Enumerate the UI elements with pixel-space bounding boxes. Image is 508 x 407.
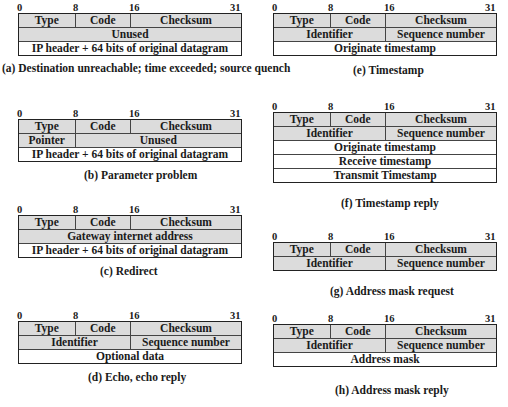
bit-label: 31 [485,313,496,324]
field-unused: Unused [75,134,242,147]
panel-c: 081631TypeCodeChecksumGateway internet a… [18,204,242,258]
bit-label: 31 [230,108,241,119]
panel-e: 081631TypeCodeChecksumIdentifierSequence… [273,2,497,56]
bit-label: 16 [384,313,395,324]
field-pointer: Pointer [19,134,75,147]
bit-label: 16 [384,231,395,242]
field-row: IdentifierSequence number [274,338,496,352]
packet-format-box: TypeCodeChecksumIdentifierSequence numbe… [273,242,497,271]
bit-label: 8 [328,101,333,112]
field-unused: Unused [19,28,241,41]
bit-label: 0 [272,101,277,112]
field-checksum: Checksum [385,14,496,27]
bit-label: 31 [230,310,241,321]
bit-label: 8 [73,204,78,215]
packet-format-box: TypeCodeChecksumIdentifierSequence numbe… [273,13,497,56]
field-gateway-internet-address: Gateway internet address [19,230,241,243]
field-row: IdentifierSequence number [274,126,496,140]
bit-label: 8 [328,231,333,242]
field-ip-header-64-bits-of-original-datagram: IP header + 64 bits of original datagram [19,42,241,55]
bit-label: 16 [129,2,140,13]
field-type: Type [19,216,75,229]
panel-a: 081631TypeCodeChecksumUnusedIP header + … [18,2,242,56]
field-sequence-number: Sequence number [130,336,241,349]
field-row: Gateway internet address [19,229,241,243]
panel-d: 081631TypeCodeChecksumIdentifierSequence… [18,310,242,364]
field-row: IdentifierSequence number [274,256,496,270]
field-row: Originate timestamp [274,41,496,55]
field-code: Code [75,14,131,27]
bit-label: 31 [485,231,496,242]
bit-label: 0 [272,313,277,324]
bit-label: 0 [17,2,22,13]
bit-label: 8 [328,2,333,13]
bit-label: 0 [272,2,277,13]
field-sequence-number: Sequence number [385,339,496,352]
caption-a: (a) Destination unreachable; time exceed… [2,62,302,74]
field-row: Transmit Timestamp [274,168,496,182]
field-identifier: Identifier [274,339,385,352]
field-originate-timestamp: Originate timestamp [274,42,496,55]
bit-label: 0 [17,108,22,119]
field-code: Code [75,322,131,335]
bit-label: 0 [17,310,22,321]
field-type: Type [274,14,330,27]
bit-ruler: 081631 [273,231,497,242]
field-type: Type [19,14,75,27]
bit-ruler: 081631 [273,101,497,112]
field-row: IP header + 64 bits of original datagram [19,147,241,161]
bit-ruler: 081631 [18,310,242,321]
packet-format-box: TypeCodeChecksumIdentifierSequence numbe… [273,112,497,183]
field-row: TypeCodeChecksum [274,113,496,126]
caption-e: (e) Timestamp [353,64,508,76]
field-code: Code [330,325,386,338]
panel-f: 081631TypeCodeChecksumIdentifierSequence… [273,101,497,183]
bit-label: 8 [73,108,78,119]
field-type: Type [19,120,75,133]
panel-b: 081631TypeCodeChecksumPointerUnusedIP he… [18,108,242,162]
field-optional-data: Optional data [19,350,241,363]
field-row: TypeCodeChecksum [274,14,496,27]
field-type: Type [274,243,330,256]
field-sequence-number: Sequence number [385,257,496,270]
field-checksum: Checksum [130,120,241,133]
field-identifier: Identifier [274,257,385,270]
field-transmit-timestamp: Transmit Timestamp [274,169,496,182]
field-row: IP header + 64 bits of original datagram [19,243,241,257]
bit-label: 16 [384,101,395,112]
bit-label: 31 [485,101,496,112]
field-row: TypeCodeChecksum [274,325,496,338]
field-identifier: Identifier [274,127,385,140]
field-code: Code [330,243,386,256]
caption-h: (h) Address mask reply [335,384,508,396]
field-row: TypeCodeChecksum [274,243,496,256]
caption-f: (f) Timestamp reply [341,197,508,209]
bit-label: 16 [129,108,140,119]
field-row: Receive timestamp [274,154,496,168]
field-code: Code [75,120,131,133]
bit-ruler: 081631 [18,2,242,13]
field-type: Type [19,322,75,335]
field-row: TypeCodeChecksum [19,216,241,229]
panel-h: 081631TypeCodeChecksumIdentifierSequence… [273,313,497,367]
packet-format-box: TypeCodeChecksumUnusedIP header + 64 bit… [18,13,242,56]
field-checksum: Checksum [385,325,496,338]
field-identifier: Identifier [274,28,385,41]
bit-label: 8 [73,2,78,13]
field-checksum: Checksum [385,113,496,126]
field-checksum: Checksum [130,216,241,229]
packet-format-box: TypeCodeChecksumPointerUnusedIP header +… [18,119,242,162]
packet-format-box: TypeCodeChecksumGateway internet address… [18,215,242,258]
field-row: IP header + 64 bits of original datagram [19,41,241,55]
field-ip-header-64-bits-of-original-datagram: IP header + 64 bits of original datagram [19,148,241,161]
bit-label: 31 [485,2,496,13]
field-row: Originate timestamp [274,140,496,154]
field-row: IdentifierSequence number [274,27,496,41]
field-type: Type [274,325,330,338]
field-row: TypeCodeChecksum [19,14,241,27]
packet-format-box: TypeCodeChecksumIdentifierSequence numbe… [273,324,497,367]
bit-label: 8 [73,310,78,321]
field-checksum: Checksum [385,243,496,256]
bit-label: 16 [129,310,140,321]
bit-label: 31 [230,204,241,215]
